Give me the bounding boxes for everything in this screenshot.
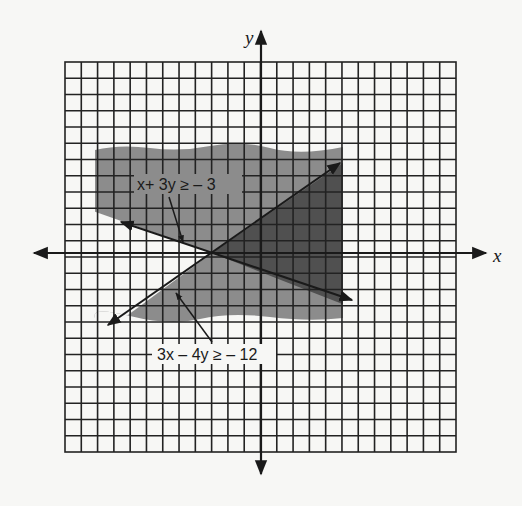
y-axis-label: y	[243, 27, 254, 48]
graph-figure: x y x+ 3y ≥ – 3 3x – 4y ≥ – 12	[0, 0, 522, 506]
inequality-label-2: 3x – 4y ≥ – 12	[157, 346, 258, 363]
inequality-label-1: x+ 3y ≥ – 3	[137, 176, 216, 193]
x-axis-label: x	[492, 245, 502, 266]
